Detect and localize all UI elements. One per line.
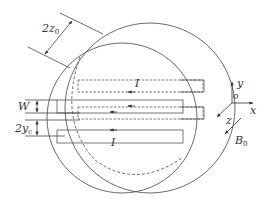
gap-label: 2yc [15, 123, 32, 136]
thickness-label: 2z0 [42, 23, 59, 36]
dashed-circle [72, 57, 182, 175]
axis-z-label: z [226, 115, 232, 126]
thickness-dimension [28, 13, 103, 68]
diagram-canvas: 2z0 W 2yc I I y o x z B0 [0, 0, 270, 202]
diagram-svg [0, 0, 270, 202]
width-gap-dimensions [25, 100, 80, 136]
front-strips [57, 100, 183, 143]
width-label: W [18, 101, 29, 112]
axis-x-label: x [250, 105, 256, 116]
axis-origin-label: o [233, 92, 238, 101]
field-label: B0 [235, 135, 248, 148]
disk-outlines [47, 23, 235, 193]
disk-inner-circle [47, 43, 197, 193]
current-arrows [110, 92, 135, 130]
axis-y-label: y [237, 78, 243, 89]
current-label-top: I [135, 78, 139, 89]
current-label-bottom: I [111, 137, 115, 148]
